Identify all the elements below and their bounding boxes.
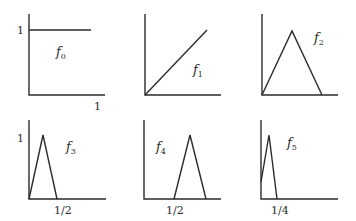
axes-f0 [29,14,105,95]
panel-f1: f1 [145,14,221,95]
x-tick-label-f3: 1/2 [54,204,72,217]
function-label-f1: f1 [192,62,203,79]
curve-f2 [262,31,322,95]
curve-f3 [29,135,57,199]
curve-f5 [261,135,277,199]
function-label-sub: 2 [319,38,324,47]
function-label-f5: f5 [286,135,297,152]
panel-f2: f2 [262,14,338,95]
function-label-f4: f4 [155,139,166,156]
y-tick-label-f0: 1 [17,24,24,37]
function-label-sub: 0 [61,52,66,61]
panel-f0: 1 1 f0 [17,14,105,113]
x-tick-label-f4: 1/2 [166,204,184,217]
y-tick-label-f3: 1 [17,132,24,145]
function-label-f3: f3 [65,139,76,156]
function-label-sub: 4 [161,147,166,156]
function-label-f2: f2 [313,30,324,47]
function-label-sub: 3 [71,147,76,156]
function-sequence-diagram: 1 1 f0 f1 f2 1 1/2 f3 1/2 f4 [0,0,356,221]
panel-f5: 1/4 f5 [261,120,338,217]
function-label-sub: 1 [198,70,203,79]
x-tick-label-f0: 1 [94,100,101,113]
function-label-sub: 5 [292,143,297,152]
x-tick-label-f5: 1/4 [271,204,289,217]
axes-f2 [262,14,338,95]
axes-f4 [144,120,221,199]
function-label-f0: f0 [55,44,66,61]
axes-f3 [29,120,106,199]
curve-f4 [174,135,206,199]
panel-f4: 1/2 f4 [144,120,221,217]
panel-f3: 1 1/2 f3 [17,120,106,217]
